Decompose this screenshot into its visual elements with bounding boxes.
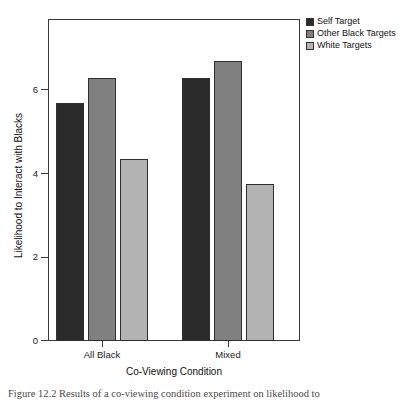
figure-caption: Figure 12.2 Results of a co-viewing cond…	[8, 388, 404, 400]
x-axis-title: Co-Viewing Condition	[0, 366, 348, 377]
y-axis-tick	[41, 340, 48, 341]
legend: Self Target Other Black Targets White Ta…	[306, 16, 406, 52]
x-axis-tick-label: Mixed	[215, 350, 240, 360]
y-axis-tick-label: 0	[4, 336, 38, 346]
legend-swatch-self-target	[306, 18, 314, 26]
bar	[120, 159, 148, 341]
legend-item: Self Target	[306, 16, 406, 27]
bar	[56, 103, 84, 341]
y-axis-tick	[41, 89, 48, 90]
y-axis-tick	[41, 257, 48, 258]
y-axis-title: Likelihood to Interact with Blacks	[13, 86, 24, 286]
x-axis-tick	[228, 341, 229, 347]
x-axis-tick-label: All Black	[84, 350, 120, 360]
legend-swatch-other-black-targets	[306, 30, 314, 38]
x-axis-tick	[102, 341, 103, 347]
figure-container: 0246 All BlackMixed Likelihood to Intera…	[0, 0, 408, 400]
bar	[182, 78, 210, 341]
bar	[214, 61, 242, 341]
legend-item: White Targets	[306, 40, 406, 51]
legend-label: White Targets	[317, 40, 372, 50]
bar	[246, 184, 274, 341]
y-axis-tick	[41, 173, 48, 174]
legend-label: Self Target	[317, 16, 360, 26]
bar	[88, 78, 116, 341]
legend-label: Other Black Targets	[317, 28, 396, 38]
legend-swatch-white-targets	[306, 42, 314, 50]
legend-item: Other Black Targets	[306, 28, 406, 39]
